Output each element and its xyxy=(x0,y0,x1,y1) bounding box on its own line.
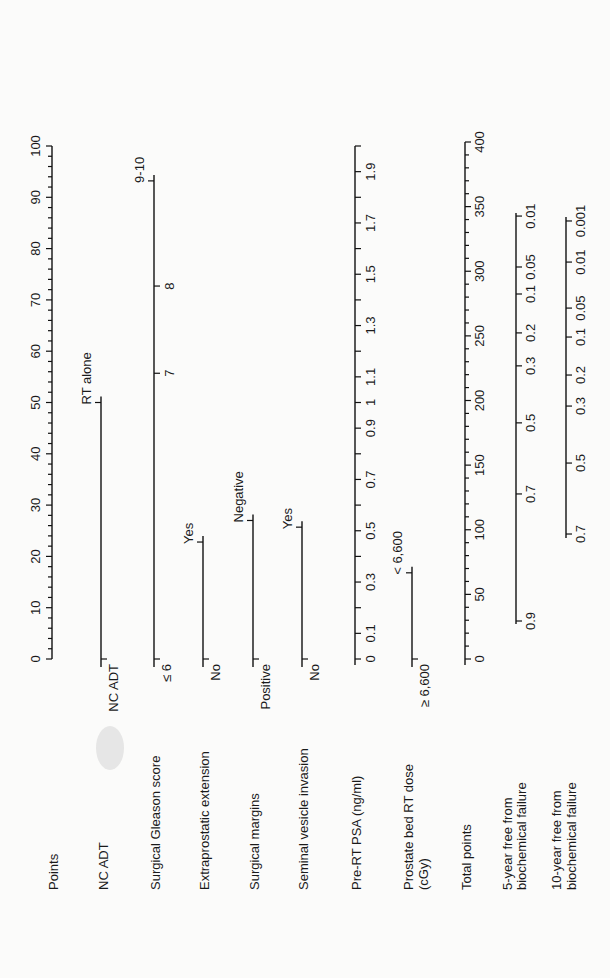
tick-label: 100 xyxy=(472,519,487,541)
level-label: 8 xyxy=(162,282,177,289)
tick-label: 0.001 xyxy=(573,205,588,238)
tick-label: 0 xyxy=(28,655,43,662)
tick-label: 0.7 xyxy=(573,525,588,543)
level-label: ≥ 6,600 xyxy=(417,664,432,707)
level-label: 7 xyxy=(162,370,177,377)
nomogram-chart: Points0102030405060708090100NC ADTNC ADT… xyxy=(0,0,610,978)
tick-label: 150 xyxy=(472,454,487,476)
level-label: Positive xyxy=(258,664,273,710)
tick-label: 0.01 xyxy=(523,203,538,228)
tick-label: 0.1 xyxy=(523,285,538,303)
tick-label: 0.5 xyxy=(523,414,538,432)
tick-label: 80 xyxy=(28,241,43,255)
tick-label: 0.3 xyxy=(573,397,588,415)
row-label: Prostate bed RT dose xyxy=(401,764,416,890)
tick-label: 0.01 xyxy=(573,249,588,274)
tick-label: 350 xyxy=(472,196,487,218)
tick-label: 90 xyxy=(28,190,43,204)
row-label: Surgical Gleason score xyxy=(148,756,163,890)
row-label: Seminal vesicle invasion xyxy=(296,748,311,890)
level-label: Yes xyxy=(181,522,196,544)
level-label: NC ADT xyxy=(106,664,121,712)
row-label: 5-year free from xyxy=(500,798,515,890)
row-label: Total points xyxy=(459,824,474,890)
tick-label: 30 xyxy=(28,498,43,512)
tick-label: 0.1 xyxy=(573,328,588,346)
tick-label: 0.05 xyxy=(523,254,538,279)
tick-label: 0.5 xyxy=(573,454,588,472)
tick-label: 1.1 xyxy=(363,368,378,386)
tick-label: 1.7 xyxy=(363,214,378,232)
row-label: biochemical failure xyxy=(564,782,579,890)
tick-label: 60 xyxy=(28,344,43,358)
level-label: RT alone xyxy=(79,352,94,404)
tick-label: 1.5 xyxy=(363,265,378,283)
tick-label: 0 xyxy=(472,655,487,662)
tick-label: 200 xyxy=(472,390,487,412)
nomogram-rows: Points0102030405060708090100NC ADTNC ADT… xyxy=(28,131,588,890)
tick-label: 0.3 xyxy=(363,573,378,591)
tick-label: 0.05 xyxy=(573,295,588,320)
row-label: Extraprostatic extension xyxy=(197,751,212,890)
tick-label: 0.7 xyxy=(523,485,538,503)
tick-label: 0.3 xyxy=(523,357,538,375)
level-label: No xyxy=(208,664,223,681)
tick-label: 0.5 xyxy=(363,522,378,540)
nomogram-figure: Points0102030405060708090100NC ADTNC ADT… xyxy=(0,0,610,978)
row-label: (cGy) xyxy=(416,858,431,890)
tick-label: 1.3 xyxy=(363,317,378,335)
row-label: Pre-RT PSA (ng/ml) xyxy=(349,776,364,890)
tick-label: 50 xyxy=(28,395,43,409)
tick-label: 0.1 xyxy=(363,624,378,642)
level-label: ≤ 6 xyxy=(159,664,174,682)
level-label: Yes xyxy=(280,507,295,529)
tick-label: 40 xyxy=(28,447,43,461)
tick-label: 0.9 xyxy=(363,419,378,437)
row-label: NC ADT xyxy=(96,842,111,890)
row-label: 10-year free from xyxy=(549,790,564,890)
level-label: No xyxy=(307,664,322,681)
tick-label: 0 xyxy=(363,655,378,662)
level-label: < 6,600 xyxy=(390,531,405,575)
tick-label: 70 xyxy=(28,293,43,307)
tick-label: 20 xyxy=(28,549,43,563)
tick-label: 1 xyxy=(363,399,378,406)
tick-label: 1.9 xyxy=(363,163,378,181)
tick-label: 0.7 xyxy=(363,470,378,488)
row-label: Points xyxy=(46,853,61,890)
tick-label: 0.2 xyxy=(573,366,588,384)
row-label: Surgical margins xyxy=(247,793,262,890)
level-label: Negative xyxy=(231,471,246,522)
level-label: 9-10 xyxy=(132,157,147,183)
row-label: biochemical failure xyxy=(514,782,529,890)
tick-label: 300 xyxy=(472,260,487,282)
tick-label: 10 xyxy=(28,600,43,614)
tick-label: 0.2 xyxy=(523,324,538,342)
tick-label: 250 xyxy=(472,325,487,347)
tick-label: 0.9 xyxy=(523,612,538,630)
scan-smudge xyxy=(96,726,124,770)
tick-label: 400 xyxy=(472,131,487,153)
tick-label: 100 xyxy=(28,135,43,157)
tick-label: 50 xyxy=(472,587,487,601)
